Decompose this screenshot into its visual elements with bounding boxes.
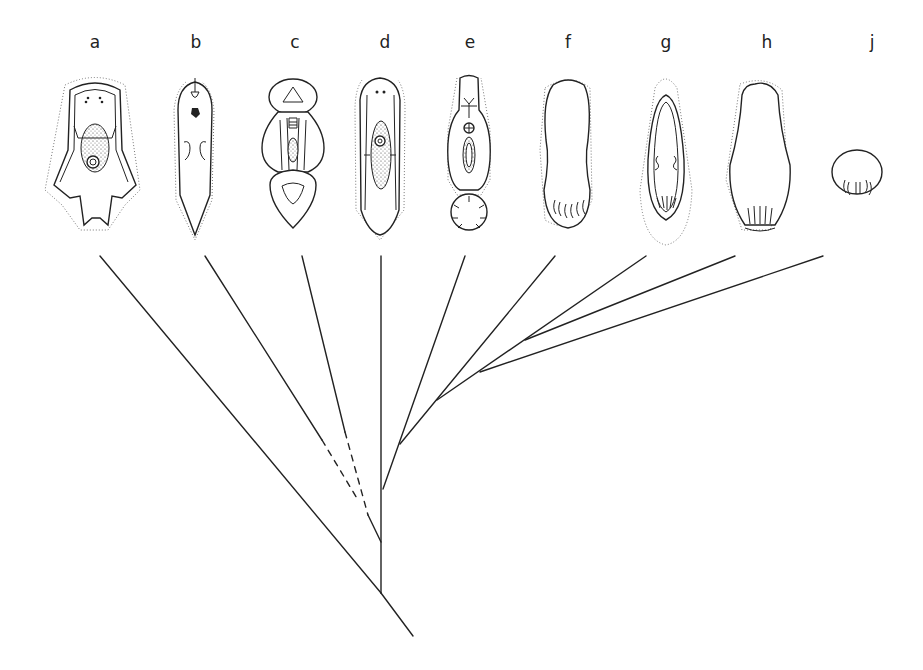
organism-b-illustration: [174, 78, 214, 240]
label-j: j: [869, 32, 875, 52]
branch-bc-join: [368, 515, 381, 542]
organism-g-illustration: [640, 79, 692, 245]
branch-h: [525, 256, 735, 340]
branch-a: [100, 256, 381, 593]
organism-e-illustration: [448, 76, 491, 231]
label-e: e: [465, 32, 475, 52]
branch-c-dashed: [345, 432, 368, 515]
phylogeny-figure: a b c d e f g h j: [0, 0, 923, 670]
organism-j-illustration: [832, 150, 882, 195]
organism-c-illustration: [262, 79, 324, 228]
label-b: b: [191, 32, 202, 52]
organism-a-illustration: [45, 78, 140, 231]
label-g: g: [661, 32, 672, 52]
organism-h-illustration: [726, 81, 790, 231]
branch-c-solid: [302, 256, 345, 432]
label-h: h: [762, 32, 773, 52]
taxon-labels: a b c d e f g h j: [90, 32, 875, 52]
branch-e: [383, 256, 465, 489]
branch-b-dashed: [322, 440, 358, 500]
label-d: d: [380, 32, 391, 52]
organism-f-illustration: [540, 80, 592, 228]
phylogenetic-tree: [100, 256, 823, 636]
branch-j: [480, 256, 823, 372]
label-f: f: [565, 32, 572, 52]
branch-b-solid: [205, 256, 322, 440]
organism-d-illustration: [355, 78, 405, 240]
branch-g: [437, 256, 646, 400]
branch-f: [400, 256, 555, 444]
label-a: a: [90, 32, 100, 52]
branch-root: [381, 593, 413, 636]
label-c: c: [290, 32, 299, 52]
